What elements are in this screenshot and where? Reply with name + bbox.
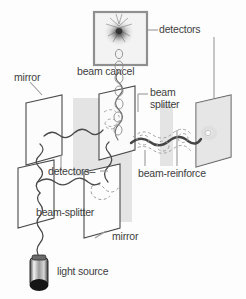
label-detectors-mid: detectors– bbox=[48, 166, 95, 178]
interferometer-illustration bbox=[0, 0, 246, 299]
label-beam-splitter-line1: beam bbox=[150, 87, 175, 99]
label-beam-splitter-line2: splitter bbox=[150, 99, 179, 111]
detector-top-screen bbox=[94, 12, 147, 65]
label-light-source: light source bbox=[57, 266, 108, 278]
label-beam-cancel: beam cancel bbox=[77, 66, 134, 78]
diagram-canvas: detectors beam cancel mirror beam splitt… bbox=[0, 0, 246, 299]
detector-right-screen bbox=[196, 95, 231, 167]
beam-splitter-upper-panel bbox=[99, 86, 135, 160]
mirror-left-panel bbox=[26, 95, 62, 165]
label-beam-splitter-lower: beam-splitter bbox=[36, 207, 94, 219]
label-mirror-left: mirror bbox=[14, 72, 40, 84]
label-mirror-bottom: mirror bbox=[112, 231, 138, 243]
label-detectors-top: detectors bbox=[159, 24, 200, 36]
light-source-laser bbox=[30, 255, 49, 291]
label-beam-reinforce: beam-reinforce bbox=[138, 168, 206, 180]
leader-mirror-left bbox=[30, 82, 42, 95]
